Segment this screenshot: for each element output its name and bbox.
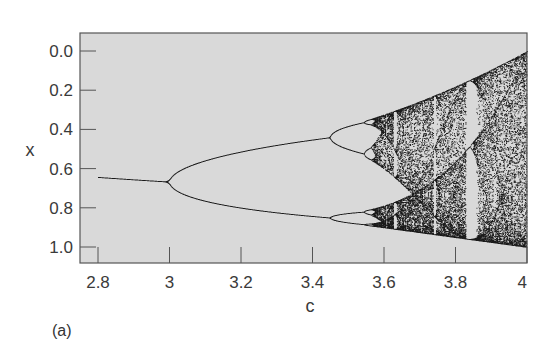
bifurcation-figure: 0.00.20.40.60.81.0 2.833.23.43.63.84 x c — [0, 0, 552, 355]
x-tick-label: 2.8 — [86, 273, 110, 292]
panel-label: (a) — [52, 322, 72, 340]
y-tick-label: 0.4 — [49, 120, 73, 139]
x-tick-label: 3 — [165, 273, 174, 292]
y-tick-label: 0.6 — [49, 160, 73, 179]
y-axis-label: x — [26, 140, 35, 160]
y-tick-label: 1.0 — [49, 238, 73, 257]
y-tick-label: 0.8 — [49, 199, 73, 218]
x-axis-label: c — [306, 296, 315, 316]
y-tick-label: 0.0 — [49, 42, 73, 61]
x-tick-label: 3.8 — [444, 273, 468, 292]
x-tick-label: 3.2 — [229, 273, 253, 292]
x-tick-label: 3.4 — [301, 273, 325, 292]
x-tick-label: 4 — [518, 273, 527, 292]
x-tick-label: 3.6 — [372, 273, 396, 292]
y-tick-label: 0.2 — [49, 81, 73, 100]
